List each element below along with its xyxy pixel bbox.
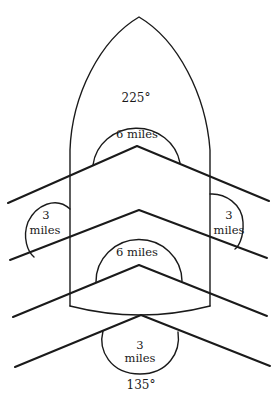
bottom-3-label: 3 — [136, 339, 143, 351]
right-miles-label: miles — [214, 224, 245, 236]
outer-boundary — [70, 17, 210, 306]
upper-6-miles-label: 6 miles — [116, 128, 158, 140]
bearing-225-label: 225° — [122, 92, 151, 104]
bottom-miles-label: miles — [125, 352, 156, 364]
left-3-label: 3 — [42, 209, 49, 221]
chevron-line-3 — [13, 265, 267, 317]
chevron-line-1 — [8, 146, 269, 203]
boundary-bottom-arc — [70, 306, 210, 315]
lower-6-miles-label: 6 miles — [116, 246, 158, 258]
bearing-135-label: 135° — [127, 379, 156, 391]
left-miles-label: miles — [30, 224, 61, 236]
right-3-label: 3 — [225, 209, 232, 221]
